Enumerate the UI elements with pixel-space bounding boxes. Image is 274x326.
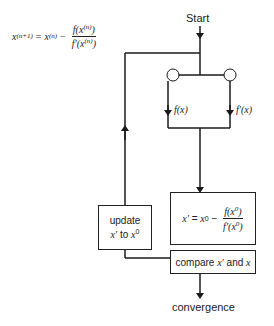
update-box: update x′ to x0 [98,205,152,250]
node-circle-right [224,69,236,81]
formula-box: x′ = x0 − f(x0) f′(x0) [170,192,256,245]
branch-right-label: f′(x) [236,105,252,115]
branch-left-label: f(x) [174,105,188,115]
iteration-formula: x(n+1) = x(n) − f(x(n)) f′(x(n)) [12,24,97,50]
compare-box: compare x′ and x [170,250,256,274]
node-circle-left [167,69,179,81]
formula-fraction: f(x0) f′(x0) [222,205,244,233]
convergence-label: convergence [172,302,235,313]
start-label: Start [186,13,209,24]
iteration-fraction: f(x(n)) f′(x(n)) [71,24,97,50]
